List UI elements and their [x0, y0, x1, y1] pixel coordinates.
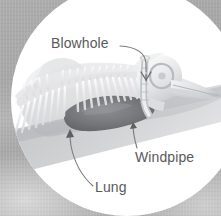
dolphin-anatomy-figure: Blowhole Windpipe Lung	[0, 0, 221, 216]
blowhole-opening	[140, 55, 151, 61]
eye-socket-center	[158, 72, 165, 79]
label-blowhole: Blowhole	[51, 36, 109, 50]
label-lung: Lung	[95, 180, 127, 194]
label-windpipe: Windpipe	[135, 150, 194, 164]
